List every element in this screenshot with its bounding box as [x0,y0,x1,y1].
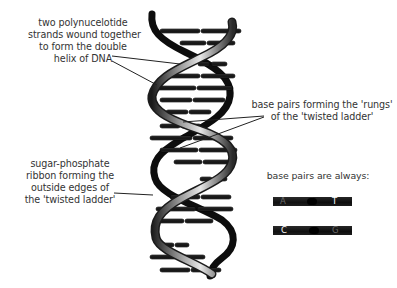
base-letter-t: T [332,196,337,207]
label-base-pairs-always: base pairs are always: [258,170,378,182]
base-letter-c: C [281,225,287,236]
label-sugar-phosphate-ribbon: sugar-phosphate ribbon forming the outsi… [20,158,120,206]
base-pair-c-g: C G [273,226,352,235]
base-letter-a: A [280,196,286,207]
label-base-pair-rungs: base pairs forming the 'rungs' of the 't… [242,99,397,123]
base-letter-g: G [332,225,339,236]
base-pair-a-t: A T [273,197,352,206]
label-polynucleotide-strands: two polynucelotide strands wound togethe… [28,17,138,65]
